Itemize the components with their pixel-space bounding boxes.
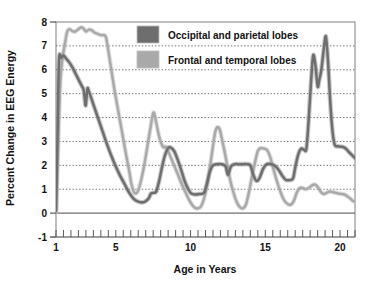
y-tick-label: 0 (41, 208, 47, 219)
x-tick-label: 20 (334, 242, 346, 253)
legend-swatch (137, 51, 159, 68)
x-tick-label: 10 (185, 242, 197, 253)
legend-label: Occipital and parietal lobes (168, 30, 298, 41)
y-tick-label: 4 (41, 112, 47, 123)
y-tick-label: 7 (41, 40, 47, 51)
y-tick-label: 2 (41, 160, 47, 171)
legend-label: Frontal and temporal lobes (168, 55, 297, 66)
y-tick-label: 6 (41, 64, 47, 75)
y-tick-label: 8 (41, 17, 47, 28)
y-tick-label: -1 (38, 232, 47, 243)
y-tick-label: 3 (41, 136, 47, 147)
legend-swatch (137, 26, 159, 43)
y-tick-label: 5 (41, 88, 47, 99)
chart-figure: -1012345678 15101520 Occipital and parie… (0, 0, 370, 281)
x-tick-label: 5 (113, 242, 119, 253)
y-axis-title: Percent Change in EEG Energy (4, 50, 16, 206)
eeg-energy-line-chart: -1012345678 15101520 Occipital and parie… (0, 0, 370, 281)
x-tick-label: 15 (260, 242, 272, 253)
y-tick-label: 1 (41, 184, 47, 195)
x-axis-title: Age in Years (174, 263, 237, 275)
x-tick-label: 1 (53, 242, 59, 253)
